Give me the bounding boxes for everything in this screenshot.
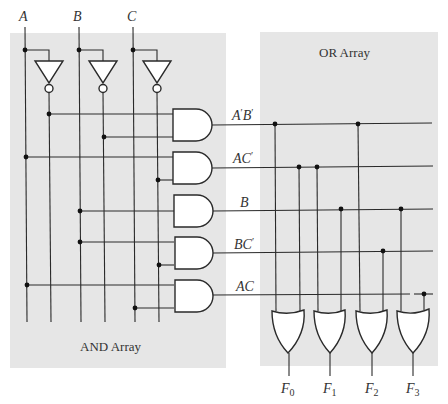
input-label-a: A bbox=[18, 9, 28, 24]
junction-dot bbox=[23, 48, 28, 53]
and-gate-a-c bbox=[175, 280, 213, 312]
pla-diagram: A B C bbox=[0, 0, 448, 404]
junction-dot bbox=[297, 165, 302, 170]
and-gate-a-not-b-not bbox=[173, 109, 212, 141]
and-gate-b-c-not bbox=[175, 237, 213, 269]
junction-dot bbox=[381, 249, 386, 254]
term-label-b: B bbox=[240, 195, 249, 210]
junction-dot bbox=[25, 283, 30, 288]
input-label-b: B bbox=[73, 9, 82, 24]
junction-dot bbox=[131, 48, 136, 53]
output-label-f0: F0 bbox=[280, 381, 295, 398]
junction-dot bbox=[356, 122, 361, 127]
term-label-a-not-b-not: A′B′ bbox=[231, 107, 254, 123]
input-label-c: C bbox=[127, 9, 137, 24]
junction-dot bbox=[399, 207, 404, 212]
output-label-f1: F1 bbox=[322, 381, 337, 398]
junction-dot bbox=[78, 240, 83, 245]
and-gate-b bbox=[174, 195, 213, 227]
junction-dot bbox=[77, 48, 82, 53]
junction-dot bbox=[273, 122, 278, 127]
junction-dot bbox=[156, 178, 161, 183]
and-array-label: AND Array bbox=[80, 339, 142, 354]
junction-dot bbox=[24, 155, 29, 160]
and-gate-a-c-not bbox=[173, 152, 212, 184]
junction-dot bbox=[422, 292, 427, 297]
junction-dot bbox=[102, 135, 107, 140]
output-label-f2: F2 bbox=[364, 381, 379, 398]
junction-dot bbox=[315, 165, 320, 170]
junction-dot bbox=[78, 209, 83, 214]
term-label-a-c: AC bbox=[235, 279, 255, 294]
output-label-f3: F3 bbox=[405, 381, 420, 398]
junction-dot bbox=[47, 112, 52, 117]
junction-dot bbox=[133, 306, 138, 311]
term-label-a-c-not: AC′ bbox=[232, 150, 253, 166]
term-label-b-c-not: BC′ bbox=[234, 236, 254, 252]
or-array-label: OR Array bbox=[319, 45, 370, 60]
junction-dot bbox=[339, 207, 344, 212]
junction-dot bbox=[157, 263, 162, 268]
